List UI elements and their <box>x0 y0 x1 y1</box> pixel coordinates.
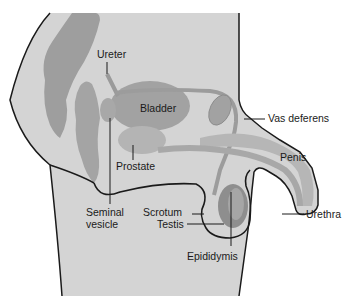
label-seminal-vesicle-1: Seminal <box>86 206 124 218</box>
label-urethra: Urethra <box>306 208 341 220</box>
epididymis-shape <box>228 188 244 220</box>
label-epididymis: Epididymis <box>187 250 238 262</box>
label-testis: Testis <box>157 218 184 230</box>
seminal-vesicle-shape <box>100 98 116 122</box>
label-ureter: Ureter <box>97 48 126 60</box>
label-penis: Penis <box>280 151 306 163</box>
anatomy-diagram: Ureter Bladder Vas deferens Penis Prosta… <box>0 0 360 308</box>
label-prostate: Prostate <box>116 160 155 172</box>
label-vas-deferens: Vas deferens <box>268 112 329 124</box>
label-scrotum: Scrotum <box>143 206 182 218</box>
label-bladder: Bladder <box>140 102 176 114</box>
label-seminal-vesicle-2: vesicle <box>86 218 118 230</box>
